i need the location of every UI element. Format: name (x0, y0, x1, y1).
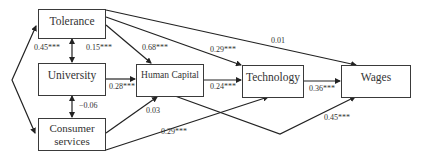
edge-tolerance-consumer (12, 26, 36, 133)
coef-tolerance-technology: 0.29*** (210, 45, 236, 54)
coef-technology-wages: 0.36*** (309, 84, 335, 93)
coef-humancapital-wages: 0.45*** (324, 113, 350, 122)
node-technology: Technology (242, 65, 304, 98)
edge-consumer-technology (106, 97, 268, 150)
node-consumer-services-label-2: services (54, 135, 89, 148)
edge-consumer-humancapital (106, 97, 157, 133)
coef-tolerance-humancapital: 0.68*** (142, 43, 168, 52)
node-consumer-services-label-1: Consumer (49, 122, 94, 135)
node-university: University (38, 63, 106, 96)
coef-tolerance-university-left: 0.45*** (34, 43, 60, 52)
coef-university-consumer: −0.06 (79, 101, 98, 110)
node-technology-label: Technology (246, 71, 300, 83)
node-wages-label: Wages (361, 71, 391, 83)
node-tolerance-label: Tolerance (49, 15, 94, 27)
coef-tolerance-university-right: 0.15*** (86, 43, 112, 52)
node-university-label: University (48, 69, 97, 81)
node-wages: Wages (341, 65, 411, 98)
node-human-capital-label: Human Capital (141, 70, 199, 80)
coef-consumer-technology: 0.29*** (161, 127, 187, 136)
coef-consumer-humancapital: 0.03 (146, 106, 160, 115)
node-tolerance: Tolerance (38, 9, 106, 39)
node-consumer-services: Consumer services (38, 118, 106, 151)
coef-tolerance-wages: 0.01 (271, 36, 285, 45)
edge-tolerance-technology (106, 17, 241, 65)
path-diagram: Tolerance University Consumer services H… (0, 0, 424, 158)
coef-university-humancapital: 0.28*** (109, 82, 135, 91)
node-human-capital: Human Capital (136, 64, 204, 97)
coef-humancapital-technology: 0.24*** (210, 82, 236, 91)
